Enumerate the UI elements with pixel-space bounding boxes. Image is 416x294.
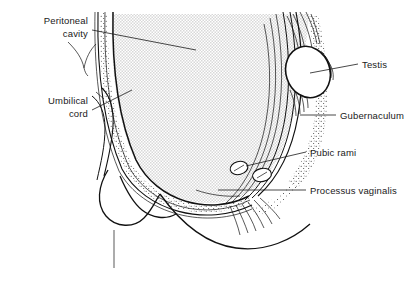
label-processus-vaginalis: Processus vaginalis <box>310 185 397 196</box>
label-pubic-rami: Pubic rami <box>310 147 356 158</box>
label-peritoneal-cavity: Peritoneal cavity <box>44 15 88 39</box>
label-umbilical-cord-line2: cord <box>69 108 88 119</box>
anatomical-figure: Peritoneal cavity Umbilical cord Testis … <box>0 0 416 294</box>
label-umbilical-cord-line1: Umbilical <box>48 95 88 106</box>
label-processus-vaginalis-line1: Processus vaginalis <box>310 185 397 196</box>
label-umbilical-cord: Umbilical cord <box>48 95 88 119</box>
label-peritoneal-cavity-line2: cavity <box>63 28 88 39</box>
label-pubic-rami-line1: Pubic rami <box>310 147 356 158</box>
label-testis-line1: Testis <box>362 59 387 70</box>
label-testis: Testis <box>362 59 387 70</box>
label-peritoneal-cavity-line1: Peritoneal <box>44 15 88 26</box>
illustration-canvas: Peritoneal cavity Umbilical cord Testis … <box>0 0 416 294</box>
label-gubernaculum: Gubernaculum <box>340 110 404 121</box>
label-gubernaculum-line1: Gubernaculum <box>340 110 404 121</box>
peritoneal-fold <box>68 42 96 76</box>
